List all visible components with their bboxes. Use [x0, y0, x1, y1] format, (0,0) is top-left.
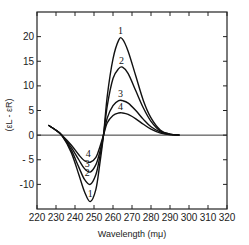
curve-4 — [48, 113, 179, 163]
curve-1 — [48, 38, 179, 202]
x-tick-label: 220 — [29, 212, 46, 223]
x-tick-label: 260 — [105, 212, 122, 223]
y-tick-label: 20 — [23, 31, 35, 42]
curve-label: 1 — [118, 25, 123, 36]
curve-3 — [48, 100, 179, 172]
y-tick-label: 15 — [23, 56, 35, 67]
y-tick-label: 0 — [28, 130, 34, 141]
y-tick-labels: -10- 505101520 — [20, 31, 35, 190]
cd-spectrum-chart: 220230240250260270280290300310320 -10- 5… — [0, 0, 249, 245]
y-tick-label: -10 — [20, 179, 35, 190]
data-curves — [48, 38, 179, 202]
curve-2 — [48, 67, 179, 185]
x-tick-label: 290 — [162, 212, 179, 223]
curve-label: 2 — [119, 55, 124, 66]
x-tick-label: 310 — [200, 212, 217, 223]
plot-frame — [37, 12, 227, 209]
y-axis-title: (εL - εR) — [4, 98, 14, 131]
axis-ticks — [37, 12, 227, 209]
y-tick-label: 5 — [28, 105, 34, 116]
curve-label: 3 — [118, 88, 123, 99]
x-tick-label: 270 — [124, 212, 141, 223]
x-tick-label: 250 — [86, 212, 103, 223]
y-tick-label: 10 — [23, 80, 35, 91]
curve-label: 2 — [85, 167, 90, 178]
x-tick-label: 230 — [48, 212, 65, 223]
x-tick-label: 240 — [67, 212, 84, 223]
x-tick-label: 320 — [219, 212, 236, 223]
x-tick-label: 300 — [181, 212, 198, 223]
x-tick-labels: 220230240250260270280290300310320 — [29, 212, 236, 223]
y-tick-label: - 5 — [22, 154, 34, 165]
curve-label: 1 — [88, 188, 93, 199]
x-tick-label: 280 — [143, 212, 160, 223]
curve-labels: 12344321 — [85, 25, 124, 199]
x-axis-title: Wavelength (mμ) — [98, 229, 166, 239]
curve-label: 4 — [118, 101, 123, 112]
